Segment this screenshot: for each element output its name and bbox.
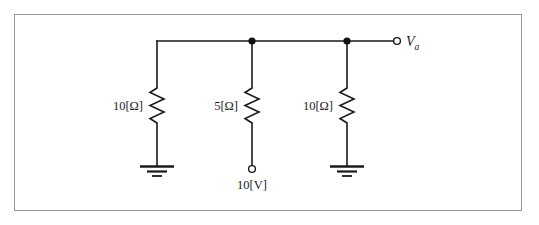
circuit-schematic-svg: 10[Ω] 5[Ω] 10[V] 10[Ω] <box>0 0 539 225</box>
junction-node-right <box>343 37 350 44</box>
resistor-left-label: 10[Ω] <box>113 99 143 113</box>
branch-left: 10[Ω] <box>113 41 174 176</box>
resistor-left-symbol <box>150 88 164 123</box>
junction-node-middle <box>248 37 255 44</box>
branch-right: 10[Ω] <box>303 41 364 176</box>
terminal-va-label: Va <box>406 34 420 52</box>
resistor-middle-symbol <box>245 88 259 123</box>
resistor-middle-label: 5[Ω] <box>214 99 238 113</box>
terminal-10v-circle[interactable] <box>249 166 256 173</box>
terminal-va-circle[interactable] <box>394 38 401 45</box>
resistor-right-label: 10[Ω] <box>303 99 333 113</box>
ground-symbol-left <box>140 167 174 177</box>
resistor-right-symbol <box>340 88 354 123</box>
branch-middle: 5[Ω] 10[V] <box>214 41 267 192</box>
terminal-va-label-subscript: a <box>415 42 420 52</box>
circuit-figure: 10[Ω] 5[Ω] 10[V] 10[Ω] <box>0 0 539 225</box>
output-terminal-va[interactable]: Va <box>394 34 420 52</box>
terminal-10v-label: 10[V] <box>237 178 267 192</box>
ground-symbol-right <box>330 167 364 177</box>
